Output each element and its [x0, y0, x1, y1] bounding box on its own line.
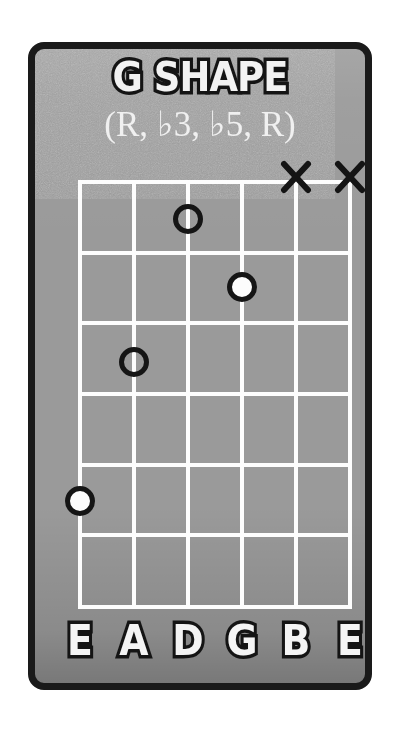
string-line-B-4 — [294, 180, 298, 609]
fretboard-grid — [80, 182, 350, 607]
fret-line-5 — [78, 533, 352, 537]
dot-g-string-fret-2 — [227, 272, 257, 302]
x-mark-high-e-string — [333, 160, 367, 194]
string-label-5-E: E — [337, 619, 363, 662]
dot-d-string-fret-1 — [173, 204, 203, 234]
title-block: G SHAPE (R, ♭3, ♭5, R) — [35, 57, 365, 142]
dot-low-e-fret-5 — [65, 486, 95, 516]
fret-line-1 — [78, 251, 352, 255]
string-line-E-5 — [348, 180, 352, 609]
fret-line-6 — [78, 605, 352, 609]
string-line-E-0 — [78, 180, 82, 609]
page-title: G SHAPE — [52, 57, 349, 98]
string-label-0-E: E — [67, 619, 93, 662]
fret-line-4 — [78, 463, 352, 467]
string-label-2-D: D — [172, 619, 203, 662]
chord-interval-formula: (R, ♭3, ♭5, R) — [35, 107, 365, 142]
string-line-A-1 — [132, 180, 136, 609]
dot-a-string-fret-3 — [119, 347, 149, 377]
fret-line-3 — [78, 392, 352, 396]
fret-line-2 — [78, 321, 352, 325]
string-line-D-2 — [186, 180, 190, 609]
string-label-4-B: B — [282, 619, 311, 662]
string-line-G-3 — [240, 180, 244, 609]
string-label-3-G: G — [226, 619, 257, 662]
string-label-1-A: A — [119, 619, 148, 662]
x-mark-b-string — [279, 160, 313, 194]
chord-card: G SHAPE (R, ♭3, ♭5, R) EADGBE — [28, 42, 372, 690]
string-label-row: EADGBE — [80, 619, 350, 675]
